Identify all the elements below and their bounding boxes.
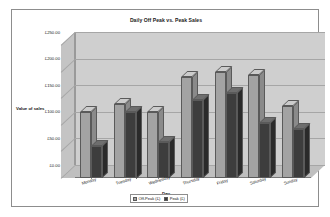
bar-saturday-peak[interactable] (259, 123, 270, 178)
legend-swatch-icon (133, 197, 137, 201)
bar-side-face (237, 87, 243, 178)
gridline (75, 59, 325, 60)
bar-side-face (169, 136, 175, 178)
chart-object-frame[interactable]: Daily Off Peak vs. Peak Sales £250.00£20… (11, 9, 319, 207)
gridline (75, 85, 325, 86)
legend-label: Off-Peak (£) (139, 196, 161, 201)
bar-thursday-peak[interactable] (192, 100, 203, 178)
bar-front-face (215, 72, 226, 178)
bar-front-face (91, 146, 102, 178)
bar-side-face (136, 106, 142, 178)
y-axis-tick-label: £0.00 (20, 163, 60, 168)
bar-front-face (248, 75, 259, 178)
bar-side-face (102, 140, 108, 178)
chart-legend[interactable]: Off-Peak (£)Peak (£) (130, 194, 188, 203)
bar-tuesday-offpeak[interactable] (114, 104, 125, 178)
bar-wednesday-offpeak[interactable] (147, 112, 158, 179)
bar-side-face (270, 118, 276, 178)
bar-front-face (158, 142, 169, 178)
bar-front-face (114, 104, 125, 178)
bar-saturday-offpeak[interactable] (248, 75, 259, 178)
legend-entry-peak[interactable]: Peak (£) (164, 196, 185, 201)
bar-side-face (203, 94, 209, 178)
bar-front-face (125, 112, 136, 179)
bar-front-face (192, 100, 203, 178)
screenshot-root: Daily Off Peak vs. Peak Sales £250.00£20… (0, 0, 330, 217)
legend-label: Peak (£) (170, 196, 185, 201)
bar-friday-peak[interactable] (226, 93, 237, 178)
y-axis-title: Value of sales (16, 106, 60, 112)
y-axis-tick-label: £150.00 (20, 83, 60, 88)
legend-entry-offpeak[interactable]: Off-Peak (£) (133, 196, 160, 201)
y-axis-tick-label: £50.00 (20, 136, 60, 141)
plot-side-wall (61, 32, 75, 178)
bar-friday-offpeak[interactable] (215, 72, 226, 178)
bar-thursday-offpeak[interactable] (181, 77, 192, 178)
legend-swatch-icon (164, 197, 168, 201)
y-axis-tick-label: £250.00 (20, 30, 60, 35)
bar-front-face (226, 93, 237, 178)
bar-monday-offpeak[interactable] (80, 112, 91, 179)
bar-tuesday-peak[interactable] (125, 112, 136, 179)
bar-front-face (147, 112, 158, 179)
bar-wednesday-peak[interactable] (158, 142, 169, 178)
bar-side-face (304, 123, 310, 178)
bar-sunday-peak[interactable] (293, 129, 304, 178)
bar-front-face (282, 106, 293, 178)
bar-front-face (259, 123, 270, 178)
bar-front-face (80, 112, 91, 179)
bar-monday-peak[interactable] (91, 146, 102, 178)
gridline (75, 32, 325, 33)
bar-front-face (293, 129, 304, 178)
y-axis-tick-label: £200.00 (20, 56, 60, 61)
bar-sunday-offpeak[interactable] (282, 106, 293, 178)
bar-front-face (181, 77, 192, 178)
